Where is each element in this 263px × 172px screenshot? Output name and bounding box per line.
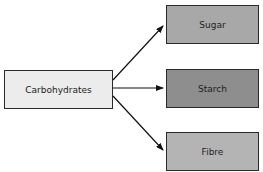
node-label: Sugar [199, 20, 225, 30]
arrow-to-fibre [113, 96, 163, 150]
node-fibre: Fibre [166, 132, 259, 171]
node-sugar: Sugar [166, 5, 259, 44]
node-label: Carbohydrates [25, 85, 91, 95]
node-label: Starch [198, 84, 227, 94]
node-starch: Starch [166, 69, 259, 108]
node-carbohydrates: Carbohydrates [4, 70, 113, 109]
node-label: Fibre [202, 147, 224, 157]
arrow-to-sugar [113, 26, 163, 80]
